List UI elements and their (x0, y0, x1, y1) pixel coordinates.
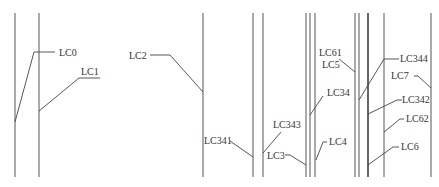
label-lc6: LC6 (401, 141, 419, 152)
leader-lc34 (310, 96, 323, 115)
label-lc7: LC7 (391, 70, 409, 81)
label-lc2: LC2 (129, 50, 147, 61)
label-lc61: LC61 (319, 47, 342, 58)
label-lc34: LC34 (327, 87, 350, 98)
label-lc4: LC4 (329, 136, 347, 147)
leader-lc341 (230, 141, 253, 157)
leader-lc1 (39, 78, 100, 111)
leader-lc3 (285, 155, 306, 165)
leader-lc0 (15, 52, 55, 122)
label-lc343: LC343 (273, 119, 301, 130)
label-lc3: LC3 (267, 150, 285, 161)
vertical-lines (15, 13, 431, 177)
leader-lc2 (150, 55, 203, 92)
label-lc5: LC5 (322, 59, 340, 70)
labels: LC0 LC1 LC2 LC341 LC343 LC3 LC34 LC4 LC6… (59, 47, 430, 161)
leader-lc4 (316, 142, 327, 160)
lineage-diagram: LC0 LC1 LC2 LC341 LC343 LC3 LC34 LC4 LC6… (0, 0, 439, 187)
label-lc344: LC344 (400, 53, 428, 64)
label-lc0: LC0 (59, 47, 77, 58)
label-lc342: LC342 (402, 94, 430, 105)
label-lc62: LC62 (406, 113, 429, 124)
leader-lc62 (384, 119, 404, 132)
label-lc341: LC341 (204, 135, 232, 146)
leader-lc342 (368, 100, 402, 114)
leader-lc5 (339, 59, 355, 72)
leader-lc7 (414, 76, 431, 88)
label-lc1: LC1 (81, 66, 99, 77)
